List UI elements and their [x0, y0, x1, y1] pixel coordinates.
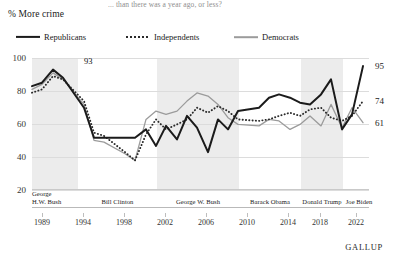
x-tick-mark-2022 — [356, 213, 357, 217]
x-tick-mark-2010 — [247, 213, 248, 217]
president-label-ghw-bush: George H.W. Bush — [32, 190, 78, 205]
x-tick-1994: 1994 — [75, 218, 91, 227]
end-label-republicans: 95 — [375, 61, 384, 71]
series-lines — [32, 58, 369, 190]
x-tick-1989: 1989 — [34, 218, 50, 227]
end-label-democrats: 61 — [375, 118, 384, 128]
president-label-trump: Donald Trump — [301, 198, 343, 206]
y-tick-60: 60 — [0, 119, 26, 129]
legend-swatch-independents — [126, 33, 150, 42]
legend-item-independents[interactable]: Independents — [126, 31, 199, 43]
president-axis-rule — [32, 207, 369, 208]
legend-label-democrats: Democrats — [262, 32, 299, 42]
annotation-peak-93: 93 — [84, 56, 93, 66]
x-tick-2018: 2018 — [312, 218, 328, 227]
x-tick-2010: 2010 — [239, 218, 255, 227]
y-tick-100: 100 — [0, 53, 26, 63]
president-label-gw-bush: George W. Bush — [157, 198, 239, 206]
y-tick-20: 20 — [0, 185, 26, 195]
source-gallup: GALLUP — [345, 242, 383, 252]
series-line-democrats — [32, 73, 363, 160]
x-tick-2014: 2014 — [280, 218, 296, 227]
x-tick-mark-2018 — [320, 213, 321, 217]
president-label-biden: Joe Biden — [343, 198, 375, 206]
x-tick-mark-2006 — [206, 213, 207, 217]
x-tick-mark-2002 — [165, 213, 166, 217]
legend-label-independents: Independents — [154, 32, 199, 42]
x-tick-mark-2014 — [288, 213, 289, 217]
legend-label-republicans: Republicans — [44, 32, 86, 42]
series-line-republicans — [32, 66, 363, 152]
gridline-20 — [32, 190, 369, 191]
president-label-clinton: Bill Clinton — [78, 198, 157, 206]
x-tick-mark-1989 — [42, 213, 43, 217]
legend-item-democrats[interactable]: Democrats — [234, 31, 299, 43]
legend-swatch-republicans — [16, 33, 40, 42]
x-axis-rule — [32, 189, 369, 190]
x-tick-2002: 2002 — [157, 218, 173, 227]
y-tick-40: 40 — [0, 152, 26, 162]
y-tick-80: 80 — [0, 86, 26, 96]
x-tick-mark-1998 — [124, 213, 125, 217]
x-tick-2006: 2006 — [198, 218, 214, 227]
x-tick-mark-1994 — [83, 213, 84, 217]
clipped-headline: ... than there was a year ago, or less? — [108, 0, 398, 9]
legend-item-republicans[interactable]: Republicans — [16, 31, 86, 43]
plot-area — [32, 58, 369, 190]
end-label-independents: 74 — [375, 96, 384, 106]
x-tick-2022: 2022 — [348, 218, 364, 227]
president-label-ghw-bush-line1: George — [32, 190, 78, 198]
chart-subtitle: % More crime — [8, 9, 64, 19]
x-tick-1998: 1998 — [116, 218, 132, 227]
legend-swatch-democrats — [234, 33, 258, 42]
president-label-obama: Barack Obama — [239, 198, 301, 206]
president-label-ghw-bush-line2: H.W. Bush — [32, 198, 78, 206]
